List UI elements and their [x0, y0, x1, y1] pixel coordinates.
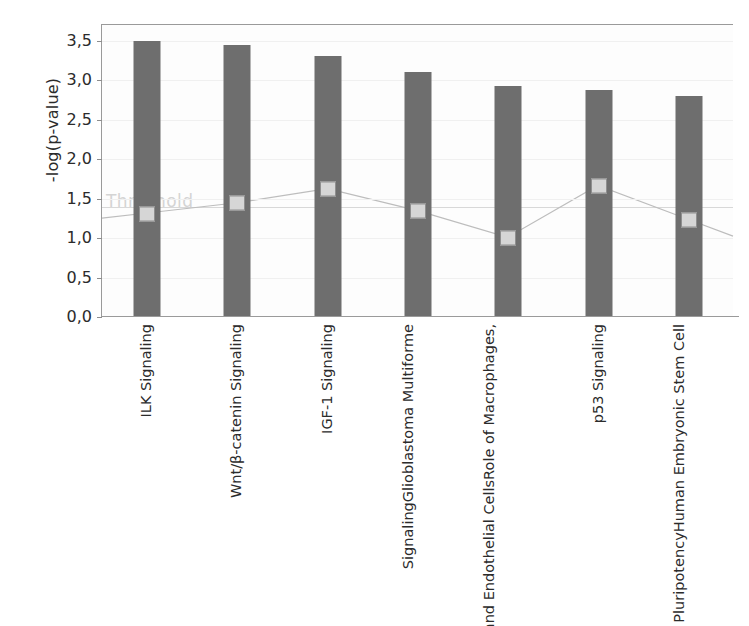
bar[interactable]	[405, 72, 432, 316]
bar[interactable]	[134, 41, 161, 316]
y-tick-label: 1,5	[38, 188, 92, 207]
ratio-marker[interactable]	[410, 204, 426, 219]
y-tick-label: 3,0	[38, 70, 92, 89]
ratio-marker[interactable]	[229, 196, 245, 211]
x-category-line: IGF-1 Signaling	[318, 324, 336, 434]
ratio-marker[interactable]	[500, 231, 516, 246]
x-category-line: Signaling	[399, 502, 417, 569]
y-tick-label: 0,0	[38, 307, 92, 326]
ratio-marker[interactable]	[320, 182, 336, 197]
ratio-marker[interactable]	[681, 212, 697, 227]
y-tick-label: 2,5	[38, 109, 92, 128]
x-category-line: Fibroblasts and Endothelial Cells	[480, 480, 498, 626]
bar[interactable]	[224, 45, 251, 316]
y-tick-label: 3,5	[38, 30, 92, 49]
y-axis-tick-labels: 0,00,51,01,52,02,53,03,5	[34, 0, 92, 626]
x-category-line: ILK Signaling	[137, 324, 155, 417]
ratio-marker[interactable]	[591, 178, 607, 193]
x-category-line: Human Embryonic Stem Cell	[670, 324, 688, 532]
bar-chart: -log(p-value) 0,00,51,01,52,02,53,03,5 T…	[0, 0, 749, 626]
y-tick-label: 0,5	[38, 267, 92, 286]
x-axis-category-labels: ILK SignalingWnt/β-catenin SignalingIGF-…	[101, 316, 733, 626]
bar[interactable]	[675, 96, 702, 316]
gridline	[102, 41, 733, 42]
ratio-marker[interactable]	[139, 206, 155, 221]
x-category-line: p53 Signaling	[589, 324, 607, 423]
plot-area: Threshold	[101, 24, 733, 316]
x-category-line: Glioblastoma Multiforme	[399, 324, 417, 502]
y-tick-label: 2,0	[38, 149, 92, 168]
y-tick-label: 1,0	[38, 228, 92, 247]
bar[interactable]	[585, 90, 612, 316]
x-category-line: Role of Macrophages,	[480, 324, 498, 480]
bar[interactable]	[495, 86, 522, 316]
x-category-line: Pluripotency	[670, 532, 688, 622]
x-category-line: Wnt/β-catenin Signaling	[227, 324, 245, 498]
